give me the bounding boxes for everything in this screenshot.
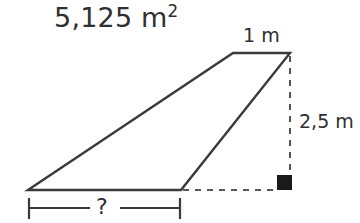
area-unit-spacer bbox=[132, 2, 141, 33]
right-angle-marker-icon bbox=[277, 175, 292, 190]
area-unit: m bbox=[141, 2, 168, 33]
unknown-base-label: ? bbox=[96, 196, 108, 218]
top-edge-length-label: 1 m bbox=[243, 26, 280, 45]
height-length-label: 2,5 m bbox=[299, 112, 354, 131]
quadrilateral-outline bbox=[28, 53, 290, 190]
area-exponent: 2 bbox=[168, 1, 179, 21]
geometry-figure: 5,125 m2 1 m 2,5 m ? bbox=[0, 0, 360, 223]
area-label: 5,125 m2 bbox=[54, 4, 178, 31]
area-value: 5,125 bbox=[54, 2, 132, 33]
